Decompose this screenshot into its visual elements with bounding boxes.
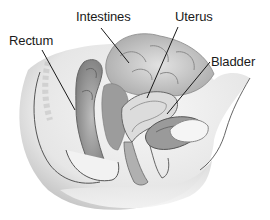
anatomy-figure: Intestines Uterus Rectum Bladder [0,0,270,220]
label-bladder: Bladder [211,55,255,68]
label-rectum: Rectum [9,34,53,47]
intestines-organ [106,34,214,97]
label-uterus: Uterus [175,10,213,23]
label-intestines: Intestines [76,10,131,23]
